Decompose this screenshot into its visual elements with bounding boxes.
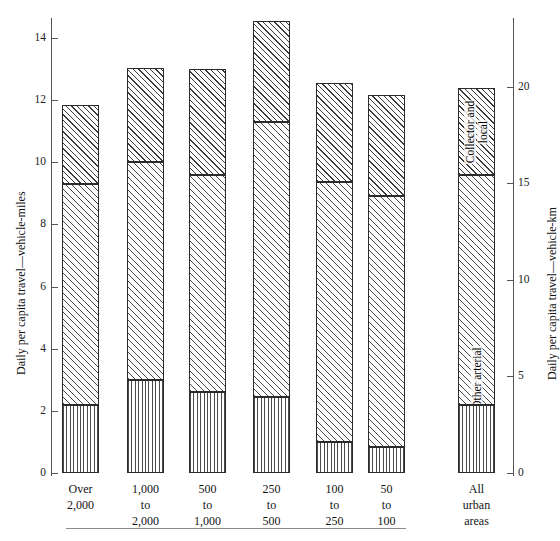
bar-segment-arterial [368,196,405,446]
footer-rule [66,528,406,529]
left-axis-tick-label: 8 [20,218,46,230]
left-axis-tick-label: 12 [20,94,46,106]
bar [368,95,405,473]
bar [127,68,164,473]
segment-legend-label-arterial: Other arterial [470,346,483,405]
bar-segment-arterial [253,122,290,397]
left-axis-line [51,18,52,476]
bar [189,69,226,473]
left-axis-tick [51,224,58,225]
bar-segment-collector [127,68,164,163]
right-axis-tick [507,473,514,474]
left-axis-tick-label: 4 [20,343,46,355]
left-axis-tick [51,473,58,474]
left-axis-tick-label: 2 [20,405,46,417]
bar [62,105,99,473]
right-axis-tick [507,183,514,184]
bar-segment-collector [316,83,353,182]
left-axis-tick [51,411,58,412]
right-axis-tick-label: 15 [518,177,544,189]
bar-segment-interstate [316,442,353,473]
bar-segment-collector [189,69,226,175]
right-axis-tick [507,376,514,377]
right-axis-tick-label: 5 [518,370,544,382]
bar-segment-collector [368,95,405,197]
bar-segment-arterial [62,184,99,405]
bar-segment-interstate [189,392,226,473]
bar-segment-arterial [127,162,164,379]
category-label: Allurbanareas [437,482,517,530]
left-axis-tick [51,100,58,101]
segment-legend-label-collector: Collector andlocal [464,100,490,164]
bar [253,21,290,473]
left-axis-tick [51,38,58,39]
bar-segment-interstate: Interstate [458,405,495,473]
bar-segment-interstate [368,447,405,473]
left-axis-tick [51,349,58,350]
bar-segment-interstate [62,405,99,473]
bar-segment-interstate [127,380,164,473]
bar-segment-collector [62,105,99,184]
left-axis-tick-label: 0 [20,467,46,479]
bar [316,83,353,473]
left-axis-tick-label: 6 [20,281,46,293]
right-axis-tick [507,87,514,88]
left-axis-tick [51,287,58,288]
bar-segment-collector: Collector andlocal [458,88,495,175]
right-axis-title: Daily per capita travel—vehicle-km [545,207,560,380]
bar-segment-arterial [316,182,353,442]
right-axis-tick-label: 0 [518,467,544,479]
bar-segment-arterial [189,175,226,392]
category-label: 50to100 [347,482,427,530]
right-axis-tick [507,280,514,281]
left-axis-tick [51,162,58,163]
bar: InterstateOther arterialCollector andloc… [458,88,495,473]
left-axis-tick-label: 14 [20,32,46,44]
right-axis-tick-label: 20 [518,81,544,93]
left-axis-tick-label: 10 [20,156,46,168]
bar-segment-arterial: Other arterial [458,175,495,405]
bar-segment-interstate [253,397,290,473]
bar-segment-collector [253,21,290,122]
right-axis-tick-label: 10 [518,274,544,286]
